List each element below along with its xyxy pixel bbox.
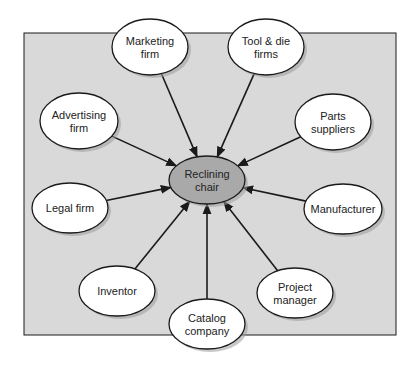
stakeholder-diagram: MarketingfirmTool & diefirmsAdvertisingf… <box>0 0 415 372</box>
node-label: manager <box>273 294 317 306</box>
node-label: Marketing <box>126 35 174 47</box>
diagram-canvas: MarketingfirmTool & diefirmsAdvertisingf… <box>0 0 415 372</box>
node-label: chair <box>195 181 219 193</box>
node-label: company <box>185 325 230 337</box>
node-label: Tool & die <box>242 35 290 47</box>
node-label: Manufacturer <box>311 203 376 215</box>
node-label: firm <box>141 48 159 60</box>
node-label: firms <box>254 48 278 60</box>
node-label: Reclining <box>184 168 229 180</box>
node-label: Parts <box>320 110 346 122</box>
node-label: Catalog <box>188 312 226 324</box>
node-label: Legal firm <box>46 202 94 214</box>
node-label: Project <box>278 281 312 293</box>
node-label: Inventor <box>97 285 137 297</box>
node-label: Advertising <box>52 109 106 121</box>
node-label: suppliers <box>311 123 356 135</box>
node-label: firm <box>70 122 88 134</box>
